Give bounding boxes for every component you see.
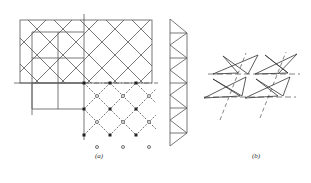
- panel-b-caption: (b): [252, 152, 260, 160]
- side-truss: [170, 19, 187, 146]
- diagram-canvas: [0, 0, 311, 183]
- panel-a-caption: (a): [95, 152, 103, 160]
- panel-a-diagram: [0, 0, 270, 183]
- panel-b-diagram: [204, 52, 300, 120]
- orthogonal-grid: [32, 32, 84, 115]
- diagonal-lattice-upper: [0, 0, 270, 183]
- diagonal-lattice-lower-dashed: [84, 83, 214, 148]
